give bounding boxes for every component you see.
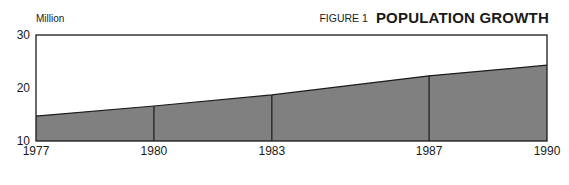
y-tick-label: 30 bbox=[17, 28, 31, 42]
y-tick-label: 20 bbox=[17, 81, 31, 95]
area-fill bbox=[36, 65, 547, 141]
area-chart: 10203019771980198319871990 bbox=[0, 0, 569, 185]
x-tick-label: 1990 bbox=[534, 144, 561, 158]
x-tick-label: 1983 bbox=[258, 144, 285, 158]
x-tick-label: 1987 bbox=[416, 144, 443, 158]
x-tick-label: 1980 bbox=[141, 144, 168, 158]
x-tick-label: 1977 bbox=[23, 144, 50, 158]
